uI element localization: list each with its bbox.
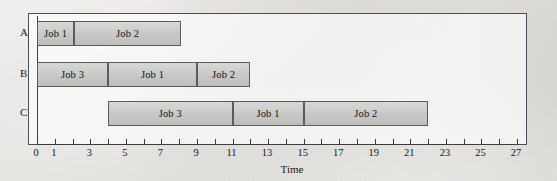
x-axis-tick — [446, 139, 447, 144]
gantt-bar[interactable]: Job 3 — [108, 101, 232, 126]
gantt-bar[interactable]: Job 2 — [197, 62, 250, 87]
x-axis-tick-label: 0 — [33, 147, 38, 158]
x-axis-tick-label: 5 — [122, 147, 127, 158]
x-axis-tick-label: 21 — [404, 147, 415, 158]
x-axis-tick — [144, 139, 145, 144]
x-axis-tick — [55, 139, 56, 144]
x-axis-tick-label: 19 — [369, 147, 380, 158]
x-axis-tick — [73, 139, 74, 144]
x-axis-tick — [37, 139, 38, 144]
gantt-bar-label: Job 1 — [256, 108, 279, 119]
x-axis-tick — [179, 139, 180, 144]
machine-row-label-a: A — [20, 26, 28, 38]
x-axis-tick — [393, 139, 394, 144]
x-axis-tick — [357, 139, 358, 144]
x-axis-tick-label: 25 — [475, 147, 486, 158]
x-axis-tick — [215, 139, 216, 144]
x-axis-tick — [304, 139, 305, 144]
x-axis-tick — [161, 139, 162, 144]
x-axis-tick — [428, 139, 429, 144]
x-axis-tick-label: 3 — [87, 147, 92, 158]
gantt-bar-label: Job 3 — [61, 69, 84, 80]
x-axis-tick — [126, 139, 127, 144]
gantt-bar[interactable]: Job 2 — [74, 21, 181, 46]
x-axis-tick-label: 1 — [51, 147, 56, 158]
gantt-bar[interactable]: Job 1 — [233, 101, 304, 126]
x-axis-tick — [233, 139, 234, 144]
x-axis-tick — [321, 139, 322, 144]
x-axis-tick-label: 17 — [333, 147, 344, 158]
machine-row-label-c: C — [20, 106, 28, 118]
x-axis-tick — [197, 139, 198, 144]
x-axis-tick — [268, 139, 269, 144]
x-axis-tick — [517, 139, 518, 144]
x-axis-tick-label: 7 — [158, 147, 163, 158]
gantt-bar[interactable]: Job 1 — [108, 62, 197, 87]
gantt-bar-label: Job 2 — [116, 28, 139, 39]
gantt-bar-label: Job 2 — [212, 69, 235, 80]
x-axis-tick-label: 13 — [262, 147, 273, 158]
gantt-bar-label: Job 3 — [159, 108, 182, 119]
gantt-bar-label: Job 2 — [354, 108, 377, 119]
gantt-bar-label: Job 1 — [141, 69, 164, 80]
x-axis-tick — [375, 139, 376, 144]
x-axis-tick — [481, 139, 482, 144]
x-axis-tick-label: 11 — [226, 147, 236, 158]
x-axis-tick-label: 27 — [511, 147, 522, 158]
gantt-bar[interactable]: Job 2 — [304, 101, 428, 126]
x-axis-label: Time — [281, 163, 304, 175]
x-axis-tick-label: 23 — [440, 147, 451, 158]
x-axis-tick — [286, 139, 287, 144]
gantt-bar-label: Job 1 — [44, 28, 67, 39]
x-axis-tick — [410, 139, 411, 144]
x-axis-tick — [499, 139, 500, 144]
x-axis-line — [37, 144, 518, 145]
x-axis-tick-label: 9 — [193, 147, 198, 158]
x-axis-tick-label: 15 — [297, 147, 308, 158]
x-axis-tick — [108, 139, 109, 144]
x-axis-tick — [90, 139, 91, 144]
machine-row-label-b: B — [20, 67, 28, 79]
x-axis-tick — [464, 139, 465, 144]
x-axis-tick — [339, 139, 340, 144]
x-axis-tick — [250, 139, 251, 144]
gantt-plot-area: Job 1Job 2Job 3Job 1Job 2Job 3Job 1Job 2 — [29, 14, 526, 144]
chart-frame: Job 1Job 2Job 3Job 1Job 2Job 3Job 1Job 2 — [28, 13, 527, 145]
gantt-bar[interactable]: Job 3 — [37, 62, 108, 87]
gantt-bar[interactable]: Job 1 — [37, 21, 74, 46]
